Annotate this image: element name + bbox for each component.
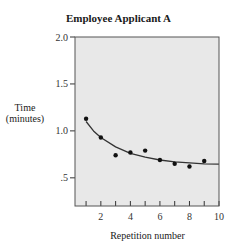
data-point bbox=[84, 116, 88, 120]
data-point bbox=[143, 148, 147, 152]
data-point bbox=[99, 135, 103, 139]
data-point bbox=[172, 162, 176, 166]
data-point bbox=[187, 164, 191, 168]
data-point bbox=[202, 159, 206, 163]
y-tick-label: .5 bbox=[61, 172, 69, 183]
x-tick-label: 2 bbox=[98, 211, 103, 222]
data-point bbox=[113, 153, 117, 157]
x-tick-label: 6 bbox=[157, 211, 162, 222]
data-point bbox=[128, 150, 132, 154]
x-tick-label: 10 bbox=[214, 211, 224, 222]
plot-area bbox=[75, 37, 219, 206]
x-tick-label: 8 bbox=[187, 211, 192, 222]
x-tick-label: 4 bbox=[128, 211, 133, 222]
chart-svg: 2468102.01.51.0.5 bbox=[0, 0, 237, 251]
y-tick-label: 2.0 bbox=[56, 32, 69, 43]
y-tick-label: 1.5 bbox=[56, 78, 69, 89]
data-point bbox=[158, 158, 162, 162]
y-tick-label: 1.0 bbox=[56, 125, 69, 136]
